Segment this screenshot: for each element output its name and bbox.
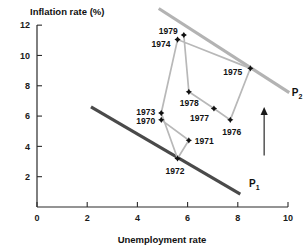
upward-shift-arrow-head (261, 107, 268, 115)
x-tick-label: 4 (135, 213, 140, 223)
data-marker-1979 (181, 32, 187, 38)
x-tick-label: 0 (34, 213, 39, 223)
y-tick-label: 2 (25, 172, 30, 182)
data-point-label-1971: 1971 (195, 136, 214, 146)
data-point-label-1978: 1978 (180, 98, 199, 108)
x-tick-label: 8 (235, 213, 240, 223)
x-axis-title: Unemployment rate (118, 234, 207, 245)
data-marker-1973 (158, 110, 164, 116)
curve-labels-group: P1P2 (249, 87, 302, 191)
phillips-curve-p2 (159, 8, 290, 92)
data-point-label-1974: 1974 (152, 39, 171, 49)
data-point-label-1976: 1976 (222, 127, 241, 137)
y-axis-title: Inflation rate (%) (30, 6, 104, 17)
phillips-curve-p1 (91, 107, 240, 194)
y-tick-label: 6 (25, 111, 30, 121)
data-point-label-1977: 1977 (190, 113, 209, 123)
data-point-label-1972: 1972 (166, 166, 185, 176)
curve-label-subscript: 1 (256, 184, 260, 191)
curve-label-p1: P1 (249, 178, 260, 191)
annotations-group (261, 107, 268, 155)
data-marker-1974 (174, 36, 180, 42)
phillips-curve-chart: 24681012 0246810 Inflation rate (%) Unem… (0, 0, 303, 251)
x-tick-label: 10 (283, 213, 293, 223)
y-tick-label: 10 (20, 51, 30, 61)
y-tick-label: 8 (25, 81, 30, 91)
curve-label-subscript: 2 (298, 93, 302, 100)
data-point-label-1973: 1973 (136, 107, 155, 117)
data-point-label-1975: 1975 (223, 67, 242, 77)
data-point-label-1979: 1979 (159, 26, 178, 36)
y-axis-ticks: 24681012 (20, 20, 42, 182)
x-tick-label: 6 (185, 213, 190, 223)
curve-label-p2: P2 (292, 87, 303, 100)
data-point-labels-group: 1970197119721973197419751976197719781979 (136, 26, 242, 176)
x-axis-ticks: 0246810 (34, 202, 293, 223)
y-tick-label: 4 (25, 142, 30, 152)
x-tick-label: 2 (85, 213, 90, 223)
chart-canvas: 24681012 0246810 Inflation rate (%) Unem… (0, 0, 303, 251)
y-tick-label: 12 (20, 20, 30, 30)
data-point-label-1970: 1970 (136, 116, 155, 126)
